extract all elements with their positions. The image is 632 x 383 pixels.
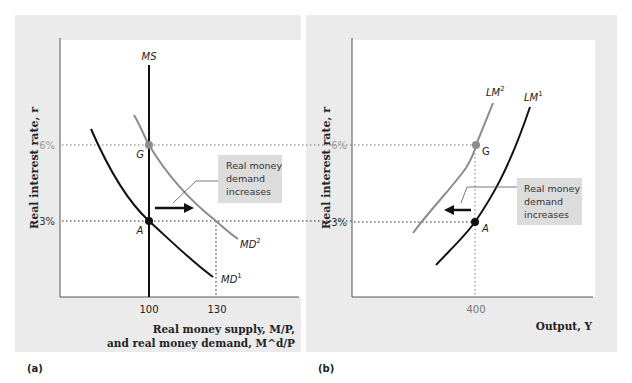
point-g-label-panel-a: G xyxy=(136,149,144,160)
panel-a-y-tick-6: 6% xyxy=(39,140,55,151)
panel-b-label: (b) xyxy=(318,363,334,374)
panel-a-x-tick-100: 100 xyxy=(139,304,158,315)
point-a-panel-b xyxy=(471,218,479,226)
point-a-label-panel-a: A xyxy=(136,225,144,236)
point-g-panel-a xyxy=(145,141,153,149)
callout-text-panel-b-3: increases xyxy=(524,209,569,220)
panel-a-label: (a) xyxy=(27,363,43,374)
panel-a-x-axis-label-line2: and real money demand, M^d/P xyxy=(107,337,295,349)
panel-b-x-axis-label: Output, Y xyxy=(536,320,593,332)
panel-b-y-tick-3: 3% xyxy=(331,217,347,228)
panel-b-y-axis-label: Real interest rate, r xyxy=(320,107,333,229)
callout-text-panel-a-3: increases xyxy=(226,186,271,197)
callout-text-panel-b-1: Real money xyxy=(524,183,580,194)
callout-text-panel-a-1: Real money xyxy=(226,160,282,171)
point-a-panel-a xyxy=(145,217,153,225)
callout-text-panel-b-2: demand xyxy=(524,196,563,207)
panel-b-plot-area xyxy=(352,40,595,297)
panel-a-x-tick-130: 130 xyxy=(207,304,226,315)
point-g-label-panel-b: G xyxy=(482,146,490,157)
callout-text-panel-a-2: demand xyxy=(226,173,265,184)
panel-a-x-axis-label-line1: Real money supply, M/P, xyxy=(153,323,295,335)
panel-a-y-axis-label: Real interest rate, r xyxy=(28,107,41,229)
panel-a-y-tick-3: 3% xyxy=(39,216,55,227)
point-a-label-panel-b: A xyxy=(481,223,489,234)
panel-b-x-tick-400: 400 xyxy=(466,304,485,315)
point-g-panel-b xyxy=(472,141,480,149)
money-market-lm-diagram: Real interest rate, r 6% 3% 100 130 Real… xyxy=(0,0,632,383)
ms-label: MS xyxy=(142,51,158,62)
panel-b-y-tick-6: 6% xyxy=(331,140,347,151)
